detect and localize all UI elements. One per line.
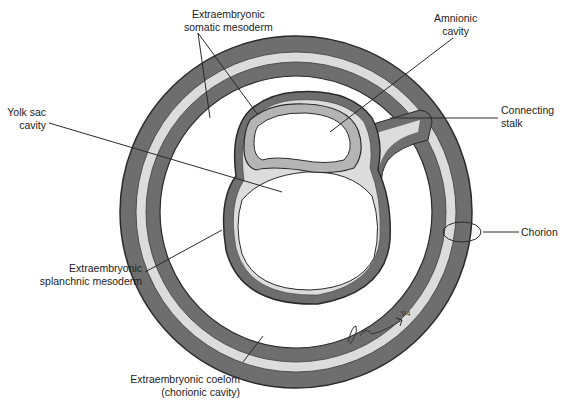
label-chorion: Chorion (521, 226, 558, 239)
diagram-canvas: '94 Extraembryonic somatic mesoderm Amni… (0, 0, 563, 405)
label-yolk-sac-cavity: Yolk sac cavity (0, 106, 46, 131)
label-connecting-stalk: Connecting stalk (501, 104, 554, 129)
amnion (244, 104, 361, 173)
label-extraembryonic-coelom: Extraembryonic coelom (chorionic cavity) (40, 373, 240, 398)
svg-text:'94: '94 (400, 309, 411, 318)
label-amnionic-cavity: Amnionic cavity (434, 12, 477, 37)
embryo-diagram: '94 (0, 0, 563, 405)
label-extraembryonic-splanchnic-mesoderm: Extraembryonic splanchnic mesoderm (0, 262, 142, 287)
label-extraembryonic-somatic-mesoderm: Extraembryonic somatic mesoderm (184, 8, 273, 33)
